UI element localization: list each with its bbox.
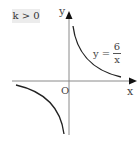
equation-label: y = 6 x [93,42,121,65]
hyperbola-graph [0,0,140,145]
curve-quadrant-3 [16,85,64,134]
x-axis-label: x [127,85,133,98]
y-axis-label: y [59,5,65,18]
origin-label: O [61,85,69,96]
equation-lhs: y [93,48,99,59]
y-axis-arrow-icon [66,11,73,19]
equation-numerator: 6 [114,42,120,52]
equation-equals: = [102,48,110,59]
x-axis-arrow-icon [129,78,137,85]
equation-fraction: 6 x [113,42,121,65]
equation-denominator: x [114,55,120,65]
